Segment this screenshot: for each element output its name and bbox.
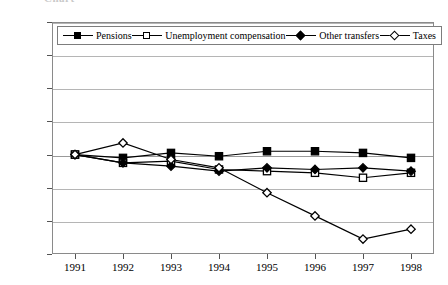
x-axis-tick-mark [315,254,316,259]
x-axis-tick-mark [363,254,364,259]
chart-container: Chart 0.080.060.040.020.00-0.02-0.04-0.0… [0,0,448,285]
legend-item-label: Other transfers [319,31,379,41]
legend-item-taxes[interactable]: Taxes [380,30,436,41]
chart-title-remnant: Chart [44,0,194,2]
gridline [53,222,433,223]
legend-item-other-transfers[interactable]: Other transfers [286,30,379,41]
plot-area [52,22,434,254]
gridline [53,122,433,123]
x-axis-tick-mark [123,254,124,259]
legend-marker-filled-diamond-icon [286,30,316,41]
gridline [53,56,433,57]
legend-item-label: Pensions [96,31,132,41]
x-axis-tick-mark [171,254,172,259]
x-axis-tick-mark [75,254,76,259]
gridline [53,89,433,90]
x-axis-tick-mark [219,254,220,259]
chart-legend: PensionsUnemployment compensationOther t… [57,26,442,45]
legend-marker-filled-square-icon [63,30,93,41]
legend-item-pensions[interactable]: Pensions [63,30,132,41]
legend-item-label: Taxes [413,31,436,41]
x-axis-tick-mark [267,254,268,259]
gridline [53,189,433,190]
legend-item-label: Unemployment compensation [165,31,285,41]
legend-item-unemployment-compensation[interactable]: Unemployment compensation [132,30,285,41]
y-axis-tick-mark [47,254,52,255]
legend-marker-open-square-icon [132,30,162,41]
x-axis-tick-mark [411,254,412,259]
x-axis-tick-label: 1998 [381,261,441,273]
legend-marker-open-diamond-icon [380,30,410,41]
gridline [53,156,433,157]
gridline [53,23,433,24]
